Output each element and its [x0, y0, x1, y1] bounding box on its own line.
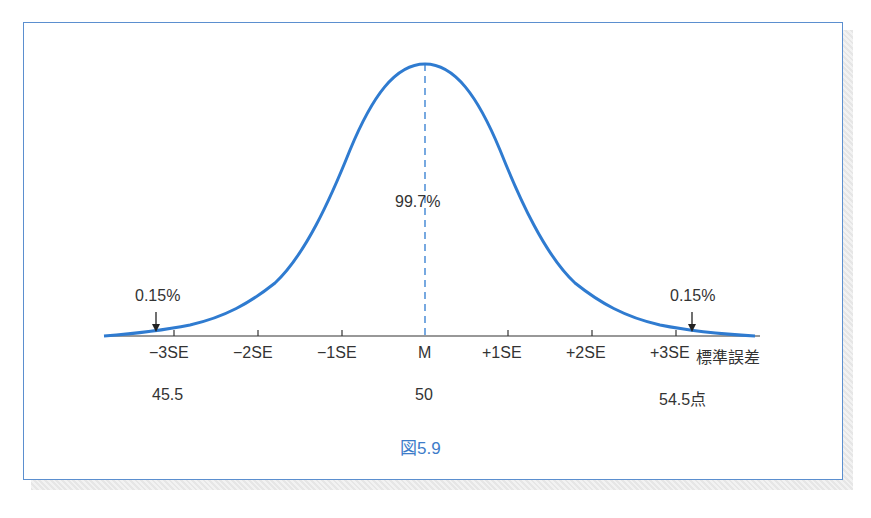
center-percentage-label: 99.7% [395, 193, 440, 211]
tick-label: +3SE [650, 344, 690, 362]
tick-label: +1SE [482, 344, 522, 362]
figure-caption: 図5.9 [400, 434, 441, 459]
score-center: 50 [415, 386, 433, 404]
tick-label: −2SE [233, 344, 273, 362]
tick-label: −1SE [317, 344, 357, 362]
score-right: 54.5点 [659, 386, 706, 410]
tick-label: M [418, 344, 431, 362]
right-tail-percentage-label: 0.15% [670, 287, 715, 305]
axis-unit-label: 標準誤差 [696, 344, 760, 368]
score-left: 45.5 [152, 386, 183, 404]
tick-label: +2SE [566, 344, 606, 362]
left-tail-percentage-label: 0.15% [135, 287, 180, 305]
tick-label: −3SE [149, 344, 189, 362]
